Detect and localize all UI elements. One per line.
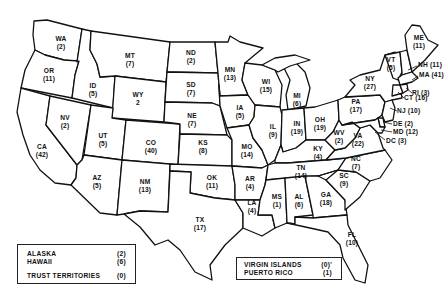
legend-label: VIRGIN ISLANDS bbox=[244, 261, 302, 269]
state-value-or: (11) bbox=[43, 75, 55, 83]
state-value-ga: (18) bbox=[320, 199, 333, 207]
state-label-mo: MO bbox=[241, 143, 252, 150]
state-value-tn: (14) bbox=[295, 172, 308, 180]
state-label-ga: GA bbox=[321, 191, 331, 198]
state-label-id: ID bbox=[90, 82, 97, 89]
state-label-nc: NC bbox=[351, 155, 361, 162]
legend-value: (6) bbox=[117, 258, 126, 266]
state-label-ny: NY bbox=[365, 75, 375, 82]
state-label-wv: WV bbox=[333, 129, 344, 136]
state-label-sd: SD bbox=[186, 81, 196, 88]
state-label-al: AL bbox=[294, 193, 303, 200]
state-label-ne: NE bbox=[187, 112, 197, 119]
legend-value: (1) bbox=[323, 269, 332, 277]
state-label-co: CO bbox=[146, 139, 156, 146]
legend-value: (0) bbox=[117, 272, 126, 280]
state-label-ky: KY bbox=[313, 145, 323, 152]
state-label-sc: SC bbox=[339, 172, 349, 179]
legend-row-hawaii: HAWAII (6) bbox=[27, 258, 126, 266]
state-label-ms: MS bbox=[272, 193, 283, 200]
state-value-ia: (5) bbox=[236, 112, 245, 120]
state-value-co: (40) bbox=[145, 147, 158, 155]
state-value-wa: (2) bbox=[57, 43, 66, 51]
legend-row-virgin-islands: VIRGIN ISLANDS (0)' bbox=[244, 261, 332, 269]
state-value-mt: (7) bbox=[126, 60, 135, 68]
state-label-ia: IA bbox=[237, 104, 244, 111]
state-value-mo: (14) bbox=[241, 151, 254, 159]
state-value-oh: (19) bbox=[314, 124, 327, 132]
legend-caribbean: VIRGIN ISLANDS (0)' PUERTO RICO (1) bbox=[236, 257, 342, 280]
state-value-wv: (2) bbox=[335, 137, 344, 145]
state-label-ar: AR bbox=[245, 175, 255, 182]
state-value-mn: (13) bbox=[224, 74, 237, 82]
state-label-nj: NJ (10) bbox=[397, 107, 420, 115]
state-label-in: IN bbox=[294, 120, 301, 127]
state-label-ut: UT bbox=[98, 132, 107, 139]
state-label-tx: TX bbox=[196, 216, 205, 223]
state-label-or: OR bbox=[44, 67, 54, 74]
state-value-ne: (7) bbox=[188, 120, 197, 128]
state-label-la: LA bbox=[247, 199, 256, 206]
state-label-nh: NH (11) bbox=[418, 61, 442, 69]
legend-row-puerto-rico: PUERTO RICO (1) bbox=[244, 269, 332, 277]
state-label-ca: CA bbox=[37, 143, 47, 150]
state-value-sc: (9) bbox=[340, 180, 349, 188]
legend-label: PUERTO RICO bbox=[244, 269, 293, 277]
state-label-vt: VT bbox=[387, 56, 396, 63]
state-value-ut: (5) bbox=[99, 140, 108, 148]
state-label-ma: MA (41) bbox=[419, 71, 444, 79]
state-value-me: (11) bbox=[413, 42, 425, 50]
state-value-va: (22) bbox=[352, 140, 365, 148]
state-label-ct: CT (16) bbox=[404, 94, 428, 102]
state-value-in: (19) bbox=[291, 128, 304, 136]
state-value-wy: 2 bbox=[136, 99, 140, 106]
state-label-wy: WY bbox=[132, 91, 143, 98]
state-label-wi: WI bbox=[262, 78, 270, 85]
state-label-tn: TN bbox=[296, 164, 305, 171]
state-value-ok: (11) bbox=[206, 182, 218, 190]
state-value-la: (4) bbox=[248, 207, 257, 215]
state-value-il: (9) bbox=[269, 131, 278, 139]
state-value-ca: (42) bbox=[36, 151, 49, 159]
state-label-ks: KS bbox=[198, 139, 208, 146]
state-value-sd: (7) bbox=[187, 89, 196, 97]
state-label-wa: WA bbox=[55, 35, 66, 42]
state-label-il: IL bbox=[270, 123, 276, 130]
state-value-mi: (6) bbox=[293, 100, 302, 108]
state-label-mn: MN bbox=[225, 66, 236, 73]
state-label-me: ME bbox=[414, 34, 425, 41]
state-value-nc: (7) bbox=[352, 163, 361, 171]
state-value-nd: (2) bbox=[187, 57, 196, 65]
state-label-mi: MI bbox=[293, 92, 301, 99]
legend-row-alaska: ALASKA (2) bbox=[27, 250, 126, 258]
state-label-pa: PA bbox=[351, 98, 360, 105]
state-value-tx: (17) bbox=[194, 224, 207, 232]
state-value-fl: (10) bbox=[346, 239, 359, 247]
legend-value: (0)' bbox=[321, 261, 332, 269]
state-value-pa: (17) bbox=[350, 106, 363, 114]
state-label-md: MD (12) bbox=[393, 128, 418, 136]
state-value-nv: (2) bbox=[61, 122, 70, 130]
state-value-ky: (4) bbox=[314, 153, 323, 161]
legend-value: (2) bbox=[117, 250, 126, 258]
state-label-nv: NV bbox=[60, 114, 70, 121]
legend-label: ALASKA bbox=[27, 250, 56, 258]
state-label-dc: DC (3) bbox=[386, 137, 407, 145]
state-label-ok: OK bbox=[207, 174, 217, 181]
state-label-nm: NM bbox=[140, 178, 151, 185]
legend-label: TRUST TERRITORIES bbox=[27, 272, 100, 280]
state-label-oh: OH bbox=[315, 116, 325, 123]
legend-row-trust-territories: TRUST TERRITORIES (0) bbox=[27, 272, 126, 280]
state-label-de: DE (2) bbox=[393, 120, 413, 128]
state-value-ar: (4) bbox=[246, 183, 255, 191]
state-value-vt: (5) bbox=[387, 64, 396, 72]
state-value-ms: (1) bbox=[273, 201, 282, 209]
state-value-az: (5) bbox=[93, 182, 102, 190]
state-label-fl: FL bbox=[348, 231, 356, 238]
legend-label: HAWAII bbox=[27, 258, 52, 266]
state-value-id: (5) bbox=[89, 90, 98, 98]
state-value-wi: (15) bbox=[260, 86, 273, 94]
state-value-nm: (13) bbox=[139, 186, 152, 194]
state-label-mt: MT bbox=[125, 52, 135, 59]
state-value-al: (6) bbox=[295, 201, 304, 209]
